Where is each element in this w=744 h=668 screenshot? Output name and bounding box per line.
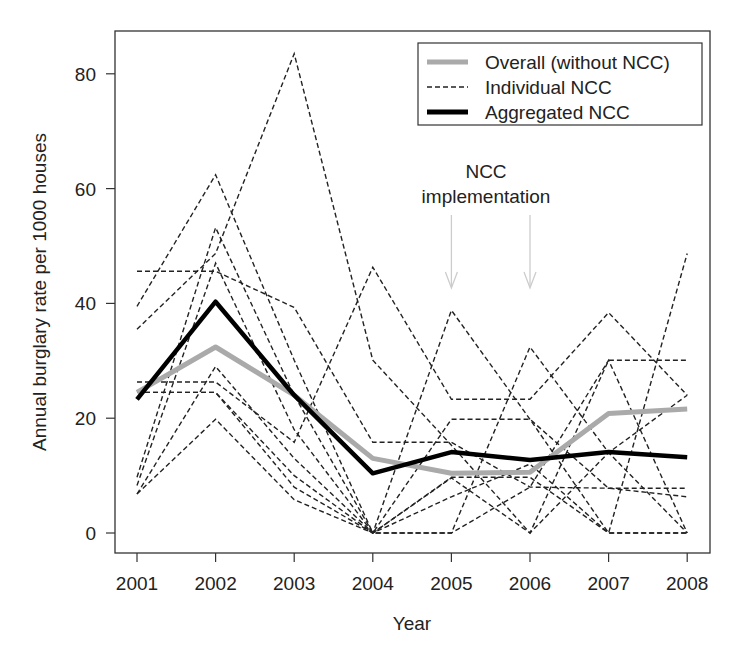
- individual-ncc-line-5: [137, 254, 687, 534]
- annotation-line-2: implementation: [422, 186, 551, 207]
- legend: Overall (without NCC) Individual NCC Agg…: [418, 43, 702, 125]
- x-axis-title: Year: [393, 613, 432, 634]
- individual-ncc-line-2: [137, 175, 687, 533]
- x-tick-label: 2004: [352, 573, 395, 594]
- annotation-line-1: NCC: [465, 161, 506, 182]
- x-tick-label: 2002: [194, 573, 236, 594]
- y-tick-label: 80: [75, 64, 96, 85]
- x-tick-label: 2007: [587, 573, 629, 594]
- x-tick-label: 2006: [509, 573, 551, 594]
- burglary-rate-chart: 020406080 200120022003200420052006200720…: [0, 0, 744, 668]
- annotation-ncc-implementation: NCC implementation: [422, 161, 551, 288]
- y-tick-label: 60: [75, 179, 96, 200]
- y-tick-label: 20: [75, 408, 96, 429]
- x-tick-label: 2001: [116, 573, 158, 594]
- y-tick-label: 40: [75, 293, 96, 314]
- x-tick-label: 2005: [430, 573, 472, 594]
- x-tick-label: 2008: [666, 573, 708, 594]
- legend-label-aggregated: Aggregated NCC: [485, 102, 630, 123]
- down-arrow-icon: [445, 215, 536, 288]
- y-tick-label: 0: [85, 523, 96, 544]
- y-axis-title: Annual burglary rate per 1000 houses: [29, 133, 50, 451]
- legend-label-individual: Individual NCC: [485, 77, 612, 98]
- x-axis: 20012002200320042005200620072008: [116, 553, 708, 594]
- legend-label-overall: Overall (without NCC): [485, 52, 670, 73]
- individual-ncc-line-9: [137, 367, 687, 534]
- y-axis: 020406080: [75, 64, 115, 544]
- x-tick-label: 2003: [273, 573, 315, 594]
